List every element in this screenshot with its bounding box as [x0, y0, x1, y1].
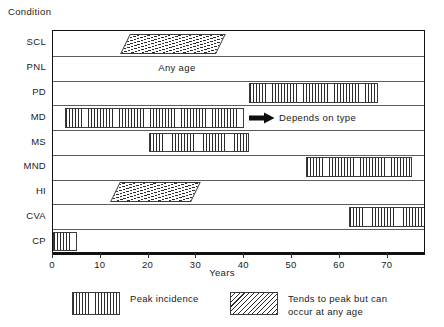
annotation-depends-on-type: Depends on type: [249, 112, 356, 124]
x-axis-line: [52, 253, 425, 255]
legend-label: Tends to peak but can occur at any age: [288, 292, 387, 318]
x-tick-label: 30: [190, 259, 201, 270]
legend-item: Tends to peak but can occur at any age: [230, 292, 387, 318]
bar-fill: [110, 182, 201, 202]
right-arrow-icon: [249, 112, 275, 124]
row-gridline: [53, 130, 424, 131]
row-label-mnd: MND: [0, 160, 46, 171]
row-gridline: [53, 229, 424, 230]
chart-legend: Peak incidenceTends to peak but can occu…: [0, 286, 444, 327]
row-label-md: MD: [0, 111, 46, 122]
row-label-ms: MS: [0, 136, 46, 147]
legend-swatch-diagonal-hatch: [230, 292, 278, 315]
bar-scl: [125, 34, 221, 54]
x-tick-label: 10: [94, 259, 105, 270]
bar-hi: [115, 182, 196, 202]
bar-md: [65, 108, 244, 128]
x-tick-label: 20: [142, 259, 153, 270]
bar-fill: [120, 34, 225, 54]
x-tick-label: 60: [333, 259, 344, 270]
row-gridline: [53, 56, 424, 57]
bar-cp: [53, 232, 77, 252]
x-tick: [100, 253, 101, 258]
x-tick: [148, 253, 149, 258]
row-gridline: [53, 204, 424, 205]
row-label-pnl: PNL: [0, 61, 46, 72]
bar-ms: [149, 133, 249, 153]
row-gridline: [53, 105, 424, 106]
x-tick-label: 40: [238, 259, 249, 270]
x-tick: [52, 253, 53, 258]
bar-pd: [249, 83, 378, 103]
y-axis-title: Condition: [8, 6, 51, 17]
bar-cva: [349, 207, 425, 227]
annotation-label: Depends on type: [279, 112, 356, 123]
annotation-any-age: Any age: [158, 62, 195, 73]
x-tick: [339, 253, 340, 258]
x-tick-label: 70: [381, 259, 392, 270]
legend-label: Peak incidence: [130, 292, 199, 306]
plot-area: Any ageDepends on type: [52, 30, 425, 253]
x-tick-label: 50: [286, 259, 297, 270]
row-gridline: [53, 155, 424, 156]
row-label-hi: HI: [0, 185, 46, 196]
bar-mnd: [306, 157, 411, 177]
row-gridline: [53, 81, 424, 82]
row-label-cva: CVA: [0, 210, 46, 221]
chart-figure: Condition Years SCLPNLPDMDMSMNDHICVACP A…: [0, 0, 444, 327]
x-tick-label: 0: [49, 259, 55, 270]
x-tick: [291, 253, 292, 258]
row-label-cp: CP: [0, 235, 46, 246]
legend-item: Peak incidence: [72, 292, 199, 315]
x-tick: [243, 253, 244, 258]
x-tick: [387, 253, 388, 258]
row-gridline: [53, 180, 424, 181]
row-label-scl: SCL: [0, 36, 46, 47]
x-tick: [195, 253, 196, 258]
x-axis-title: Years: [0, 267, 444, 278]
row-label-pd: PD: [0, 86, 46, 97]
legend-swatch-vertical-lines: [72, 292, 120, 315]
